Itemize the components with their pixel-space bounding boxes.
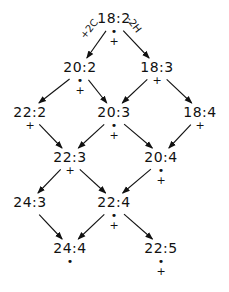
- plus-marker-icon: +: [152, 76, 161, 86]
- node-20-4: 20:4: [144, 150, 177, 164]
- edge-arrow: [122, 79, 147, 103]
- edge-arrow: [123, 31, 149, 58]
- node-22-5: 22:5: [144, 241, 177, 255]
- plus-marker-icon: +: [156, 267, 165, 277]
- plus-marker-icon: +: [75, 86, 84, 96]
- plus-marker-icon: +: [25, 121, 34, 131]
- node-22-4: 22:4: [97, 195, 130, 209]
- plus-marker-icon: +: [195, 121, 204, 131]
- edge-arrow: [169, 125, 191, 148]
- edge-arrow: [124, 214, 152, 239]
- plus-marker-icon: +: [109, 131, 118, 141]
- node-22-3: 22:3: [53, 150, 86, 164]
- edge-arrow: [88, 80, 106, 103]
- edge-arrow: [39, 215, 62, 239]
- edge-arrow: [80, 169, 106, 193]
- plus-marker-icon: +: [109, 221, 118, 231]
- dot-marker-icon: •: [67, 257, 74, 267]
- node-24-4: 24:4: [53, 241, 86, 255]
- node-18-3: 18:3: [140, 60, 173, 74]
- node-18-4: 18:4: [183, 105, 216, 119]
- edge-arrow: [124, 124, 152, 148]
- edge-arrow: [167, 79, 192, 103]
- node-22-2: 22:2: [13, 105, 46, 119]
- node-24-3: 24:3: [13, 195, 46, 209]
- plus-marker-icon: +: [109, 37, 118, 47]
- plus-marker-icon: +: [65, 166, 74, 176]
- node-20-3: 20:3: [97, 105, 130, 119]
- edge-arrow: [123, 169, 151, 193]
- edge-arrow: [39, 124, 62, 148]
- edge-arrow: [78, 124, 104, 148]
- edge-arrow: [39, 79, 70, 103]
- node-20-2: 20:2: [63, 60, 96, 74]
- edge-arrow: [78, 214, 104, 239]
- edge-arrow: [38, 169, 61, 193]
- plus-marker-icon: +: [156, 176, 165, 186]
